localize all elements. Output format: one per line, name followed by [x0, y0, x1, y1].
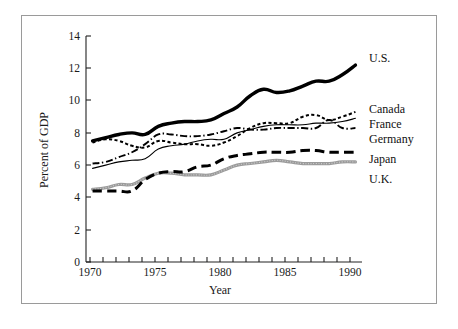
x-tick-label-1975: 1975	[144, 266, 167, 278]
x-tick-label-1970: 1970	[79, 266, 102, 278]
x-axis-title: Year	[209, 283, 231, 297]
series-label-canada: Canada	[369, 102, 406, 116]
y-tick-marks	[86, 36, 91, 262]
y-axis-title: Percent of GDP	[37, 112, 51, 188]
series-line-us	[93, 65, 356, 141]
y-tick-label-2: 2	[74, 224, 80, 236]
x-tick-label-1990: 1990	[339, 266, 362, 278]
y-tick-label-4: 4	[74, 191, 80, 203]
y-tick-label-8: 8	[74, 127, 80, 139]
y-tick-label-10: 10	[69, 94, 81, 106]
y-tick-label-14: 14	[69, 30, 81, 42]
series-label-germany: Germany	[369, 132, 414, 146]
series-line-canada	[93, 112, 356, 148]
y-axis: 14 12 10 8 6 4 2 0 Percent of GDP	[37, 30, 91, 268]
x-tick-label-1985: 1985	[274, 266, 297, 278]
line-chart-plot: 14 12 10 8 6 4 2 0 Percent of GDP	[0, 0, 458, 329]
series-labels: U.S. Canada France Germany Japan U.K.	[369, 51, 414, 186]
x-tick-label-1980: 1980	[209, 266, 232, 278]
x-tick-marks	[90, 257, 350, 262]
y-tick-label-6: 6	[74, 159, 80, 171]
chart-figure: 14 12 10 8 6 4 2 0 Percent of GDP	[0, 0, 458, 329]
series-label-uk: U.K.	[369, 172, 392, 186]
series-label-us: U.S.	[369, 51, 390, 65]
x-axis: 1970 1975 1980 1985 1990 Year	[79, 257, 363, 297]
series-label-france: France	[369, 117, 402, 131]
y-tick-label-12: 12	[69, 62, 81, 74]
series-label-japan: Japan	[369, 152, 396, 166]
series-group	[93, 65, 356, 192]
